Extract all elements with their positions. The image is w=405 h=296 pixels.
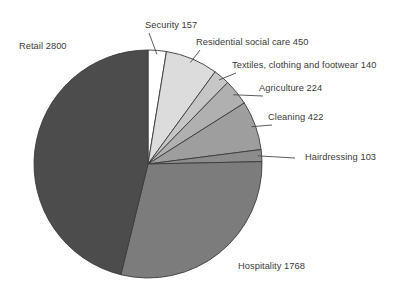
pie-slice-label: Cleaning 422	[268, 112, 323, 123]
pie-slice-label: Hairdressing 103	[305, 152, 376, 163]
pie-slice-group	[34, 50, 262, 278]
pie-slice-label: Retail 2800	[19, 41, 67, 52]
pie-slice-label: Security 157	[145, 20, 197, 31]
pie-slice-label: Textiles, clothing and footwear 140	[232, 60, 376, 71]
pie-slice-label: Hospitality 1768	[238, 261, 305, 272]
pie-slice-label: Agriculture 224	[259, 83, 322, 94]
leader-line	[258, 156, 295, 158]
pie-slice-label: Residential social care 450	[196, 37, 308, 48]
pie-chart-figure: Security 157Residential social care 450T…	[0, 0, 405, 296]
